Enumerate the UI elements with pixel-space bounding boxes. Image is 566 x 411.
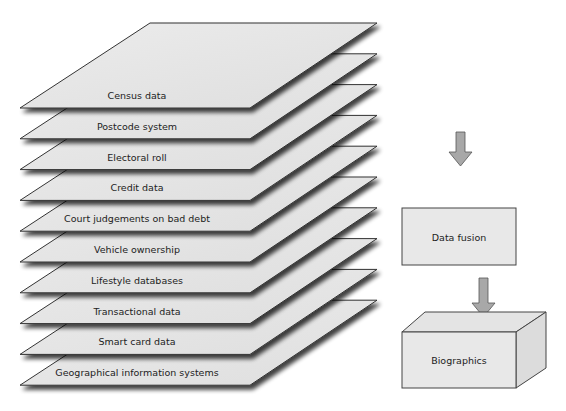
layer-label: Vehicle ownership — [94, 244, 180, 255]
biographics-label: Biographics — [431, 355, 487, 366]
arrow-down-icon — [449, 132, 472, 166]
arrow-down-icon — [472, 278, 495, 317]
layer-label: Transactional data — [93, 305, 180, 316]
layer-label: Geographical information systems — [55, 367, 218, 378]
biographics-box — [402, 312, 546, 388]
layer-label: Postcode system — [97, 120, 177, 131]
layer-label: Census data — [108, 90, 167, 101]
layer-label: Credit data — [111, 182, 164, 193]
layer-label: Smart card data — [99, 336, 176, 347]
data-fusion-label: Data fusion — [432, 232, 487, 243]
layer-stack — [20, 23, 377, 385]
layer-label: Court judgements on bad debt — [64, 213, 210, 224]
layer-label: Lifestyle databases — [91, 274, 183, 285]
layer-label: Electoral roll — [107, 151, 166, 162]
diagram-canvas — [0, 0, 566, 411]
